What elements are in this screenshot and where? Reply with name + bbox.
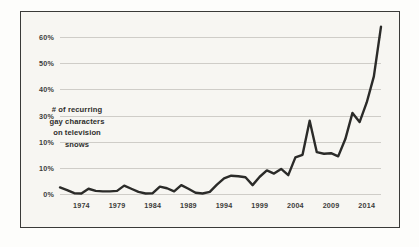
x-tick-label: 1984 [144,201,161,210]
y-tick-label: 40% [39,85,54,94]
y-tick-label: 30% [39,111,54,120]
y-tick-label: 10% [39,163,54,172]
y-tick-label: 10% [39,137,54,146]
x-tick-label: 2004 [287,201,304,210]
chart-frame: # of recurring gay characters on televis… [20,11,400,228]
y-tick-label: 50% [39,59,54,68]
chart-figure: # of recurring gay characters on televis… [0,0,419,247]
x-tick-label: 1999 [251,201,268,210]
x-tick-label: 1979 [109,201,126,210]
plot-area: 60%50%40%30%10%10%0% 1974197919841989199… [60,24,381,194]
series-line-gay-characters [60,27,381,194]
x-tick-label: 1974 [73,201,90,210]
gridline [60,194,381,195]
x-tick-label: 2014 [358,201,375,210]
x-tick-label: 1989 [180,201,197,210]
series-line-group [60,24,381,194]
y-tick-label: 60% [39,33,54,42]
y-tick-label: 0% [43,190,54,199]
x-tick-label: 2009 [323,201,340,210]
x-tick-label: 1994 [216,201,233,210]
